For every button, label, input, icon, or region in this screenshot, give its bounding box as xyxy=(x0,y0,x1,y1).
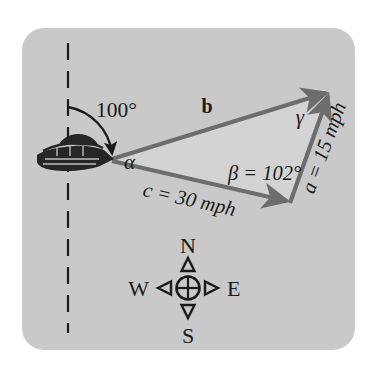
vector-triangle-diagram: 100° α b γ β = 102° c = 30 mph a = 15 mp… xyxy=(0,0,380,373)
compass-south-label: S xyxy=(182,323,194,348)
alpha-label: α xyxy=(124,150,136,174)
compass-north-label: N xyxy=(180,233,196,258)
side-b-label: b xyxy=(201,95,212,117)
compass-west-label: W xyxy=(128,276,149,301)
figure-root: 100° α b γ β = 102° c = 30 mph a = 15 mp… xyxy=(0,0,380,373)
beta-label: β = 102° xyxy=(227,162,301,185)
gamma-label: γ xyxy=(296,105,305,129)
bearing-angle-label: 100° xyxy=(96,98,137,122)
compass-east-label: E xyxy=(227,276,240,301)
